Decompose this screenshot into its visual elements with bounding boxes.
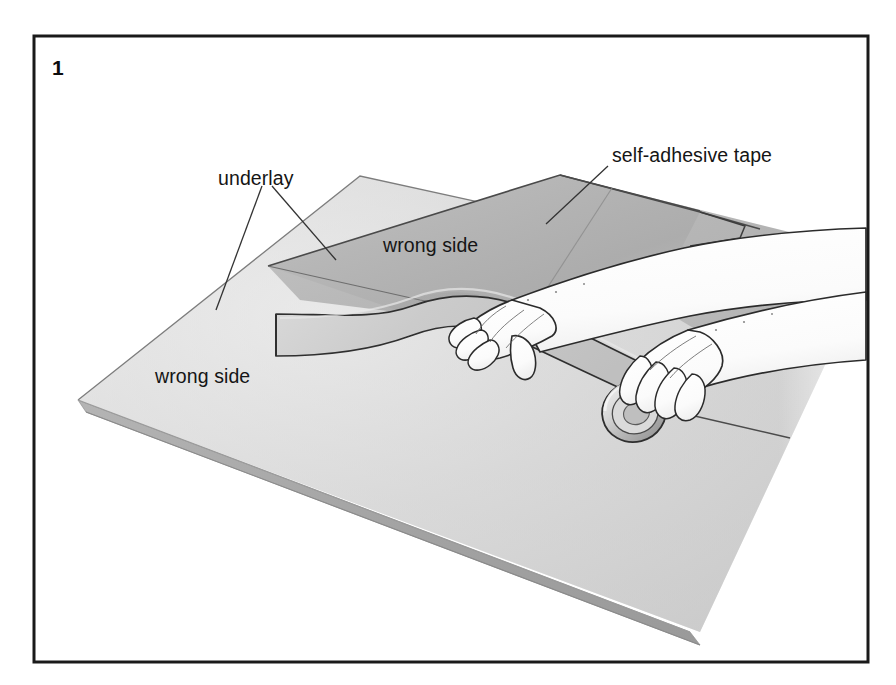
right-hand-texture-dot-1 bbox=[715, 329, 717, 331]
label-self-adhesive-tape: self-adhesive tape bbox=[612, 144, 772, 166]
label-underlay: underlay bbox=[218, 167, 294, 189]
left-hand-texture-dot-1 bbox=[527, 299, 529, 301]
right-hand-texture-dot-2 bbox=[743, 321, 745, 323]
right-hand-texture-dot-3 bbox=[771, 313, 773, 315]
figure-number: 1 bbox=[52, 56, 64, 79]
label-wrong-side-lower: wrong side bbox=[154, 365, 250, 387]
label-wrong-side-upper: wrong side bbox=[382, 234, 478, 256]
left-hand-texture-dot-3 bbox=[583, 283, 585, 285]
left-hand-texture-dot-2 bbox=[555, 291, 557, 293]
figure-container: 1 bbox=[0, 0, 896, 685]
illustration-canvas: 1 bbox=[0, 0, 896, 685]
